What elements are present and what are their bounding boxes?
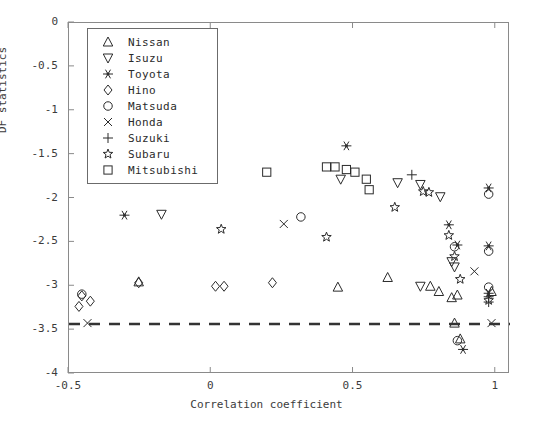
legend-label: Isuzu: [128, 52, 163, 65]
legend-item-toyota: Toyota: [88, 66, 217, 82]
legend-label: Nissan: [128, 36, 170, 49]
legend-label: Subaru: [128, 148, 170, 161]
square-icon: [88, 162, 128, 178]
chart-legend: NissanIsuzuToyotaHinoMatsudaHondaSuzukiS…: [87, 28, 218, 184]
legend-label: Suzuki: [128, 132, 170, 145]
asterisk-icon: [88, 66, 128, 82]
triangle-up-icon: [88, 34, 128, 50]
legend-label: Hino: [128, 84, 156, 97]
legend-label: Matsuda: [128, 100, 177, 113]
y-tick-label: -3: [0, 278, 58, 291]
axis-ticks-layer: [0, 0, 533, 425]
diamond-icon: [88, 82, 128, 98]
y-axis-title: DF statistics: [0, 30, 9, 150]
legend-item-nissan: Nissan: [88, 34, 217, 50]
x-tick-label: 0.5: [323, 379, 383, 392]
legend-item-matsuda: Matsuda: [88, 98, 217, 114]
circle-icon: [88, 98, 128, 114]
y-tick-label: -3.5: [0, 322, 58, 335]
y-tick-label: -4: [0, 366, 58, 379]
star-icon: [88, 146, 128, 162]
cross-icon: [88, 114, 128, 130]
plus-icon: [88, 130, 128, 146]
legend-item-mitsubishi: Mitsubishi: [88, 162, 217, 178]
triangle-down-icon: [88, 50, 128, 66]
x-tick-label: 0: [180, 379, 240, 392]
legend-item-suzuki: Suzuki: [88, 130, 217, 146]
legend-item-isuzu: Isuzu: [88, 50, 217, 66]
legend-label: Honda: [128, 116, 163, 129]
y-tick-label: -2.5: [0, 234, 58, 247]
y-tick-label: 0: [0, 15, 58, 28]
chart-container: 0-0.5-1-1.5-2-2.5-3-3.5-4-0.500.51 DF st…: [0, 0, 533, 425]
legend-item-honda: Honda: [88, 114, 217, 130]
x-axis-title: Correlation coefficient: [0, 398, 533, 411]
legend-item-subaru: Subaru: [88, 146, 217, 162]
y-tick-label: -2: [0, 191, 58, 204]
x-tick-label: -0.5: [38, 379, 98, 392]
x-tick-label: 1: [465, 379, 525, 392]
legend-item-hino: Hino: [88, 82, 217, 98]
legend-label: Mitsubishi: [128, 164, 198, 177]
legend-label: Toyota: [128, 68, 170, 81]
